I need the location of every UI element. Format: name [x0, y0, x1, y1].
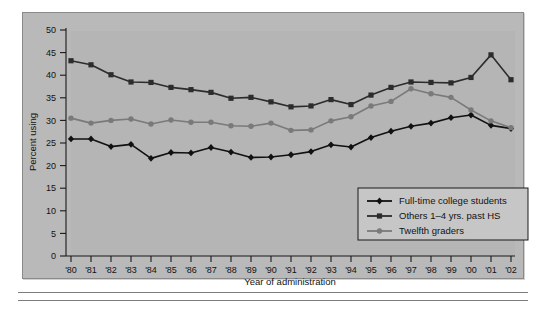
data-point-diamond — [68, 136, 74, 143]
y-tick-label: 0 — [51, 251, 56, 261]
x-tick-label: '96 — [385, 265, 397, 275]
data-point-circle — [448, 95, 453, 100]
x-tick-label: '94 — [345, 265, 357, 275]
y-tick-label: 35 — [46, 93, 56, 103]
series-line — [71, 55, 511, 107]
x-tick-label: '85 — [165, 265, 177, 275]
data-point-square — [68, 58, 73, 63]
data-point-diamond — [88, 136, 94, 143]
data-point-circle — [208, 120, 213, 125]
data-point-circle — [468, 107, 473, 112]
x-tick-label: '95 — [365, 265, 377, 275]
y-tick-label: 15 — [46, 183, 56, 193]
data-point-circle — [428, 91, 433, 96]
data-point-square — [468, 75, 473, 80]
legend-label: Others 1–4 yrs. past HS — [399, 210, 500, 221]
data-point-diamond — [288, 151, 294, 158]
scanned-page: 05101520253035404550 '80'81'82'83'84'85'… — [0, 0, 543, 316]
data-point-square — [208, 90, 213, 95]
x-tick-label: '81 — [85, 265, 97, 275]
data-point-diamond — [208, 144, 214, 151]
data-point-circle — [88, 120, 93, 125]
data-point-circle — [188, 120, 193, 125]
data-point-square — [328, 97, 333, 102]
data-point-square — [377, 213, 382, 218]
x-tick-label: '86 — [185, 265, 197, 275]
data-point-square — [188, 87, 193, 92]
x-tick-label: '97 — [405, 265, 417, 275]
data-point-circle — [328, 118, 333, 123]
data-point-diamond — [248, 154, 254, 161]
data-point-square — [348, 102, 353, 107]
y-tick-label: 30 — [46, 116, 56, 126]
x-tick-label: '91 — [285, 265, 297, 275]
data-point-circle — [388, 99, 393, 104]
data-point-circle — [308, 127, 313, 132]
data-point-diamond — [448, 114, 454, 121]
data-point-circle — [408, 86, 413, 91]
data-point-diamond — [168, 149, 174, 156]
data-point-diamond — [408, 123, 414, 130]
x-tick-label: '92 — [305, 265, 317, 275]
y-tick-label: 5 — [51, 229, 56, 239]
data-point-diamond — [188, 150, 194, 157]
data-point-diamond — [268, 154, 274, 161]
data-point-square — [288, 104, 293, 109]
page-rule-top — [18, 292, 528, 293]
data-point-diamond — [328, 141, 334, 148]
data-point-circle — [377, 228, 382, 233]
x-tick-label: '80 — [65, 265, 77, 275]
data-point-diamond — [308, 148, 314, 155]
data-point-square — [388, 85, 393, 90]
data-point-square — [88, 62, 93, 67]
data-point-circle — [348, 114, 353, 119]
x-axis-title: Year of administration — [244, 276, 336, 287]
data-point-square — [268, 99, 273, 104]
data-point-square — [428, 80, 433, 85]
data-point-circle — [108, 118, 113, 123]
data-point-circle — [248, 124, 253, 129]
data-point-square — [168, 85, 173, 90]
data-series — [68, 112, 514, 162]
y-tick-label: 20 — [46, 161, 56, 171]
y-axis-ticks: 05101520253035404550 — [46, 25, 66, 261]
data-point-diamond — [368, 134, 374, 141]
data-point-diamond — [428, 120, 434, 127]
data-point-square — [128, 79, 133, 84]
x-tick-label: '83 — [125, 265, 137, 275]
y-tick-label: 50 — [46, 25, 56, 35]
x-tick-label: '89 — [245, 265, 257, 275]
data-point-circle — [168, 117, 173, 122]
x-tick-label: '98 — [425, 265, 437, 275]
x-tick-label: '90 — [265, 265, 277, 275]
x-tick-label: '01 — [485, 265, 497, 275]
y-tick-label: 10 — [46, 206, 56, 216]
x-tick-label: '82 — [105, 265, 117, 275]
data-point-square — [368, 92, 373, 97]
data-series — [68, 86, 513, 133]
data-point-circle — [488, 118, 493, 123]
data-point-square — [488, 52, 493, 57]
legend-label: Twelfth graders — [399, 225, 464, 236]
data-point-square — [308, 103, 313, 108]
data-point-square — [408, 79, 413, 84]
x-tick-label: '88 — [225, 265, 237, 275]
data-point-square — [248, 95, 253, 100]
page-rule-bottom — [18, 300, 528, 301]
data-point-diamond — [388, 128, 394, 135]
data-point-square — [228, 96, 233, 101]
data-point-square — [508, 77, 513, 82]
data-point-diamond — [228, 149, 234, 156]
data-point-circle — [288, 128, 293, 133]
x-tick-label: '02 — [505, 265, 517, 275]
x-tick-label: '00 — [465, 265, 477, 275]
x-tick-label: '87 — [205, 265, 217, 275]
y-tick-label: 40 — [46, 70, 56, 80]
data-point-circle — [128, 116, 133, 121]
series-line — [71, 89, 511, 131]
line-chart: 05101520253035404550 '80'81'82'83'84'85'… — [0, 0, 543, 316]
y-tick-label: 25 — [46, 138, 56, 148]
data-point-diamond — [348, 144, 354, 151]
chart-legend: Full-time college studentsOthers 1–4 yrs… — [358, 188, 528, 240]
data-point-square — [148, 80, 153, 85]
